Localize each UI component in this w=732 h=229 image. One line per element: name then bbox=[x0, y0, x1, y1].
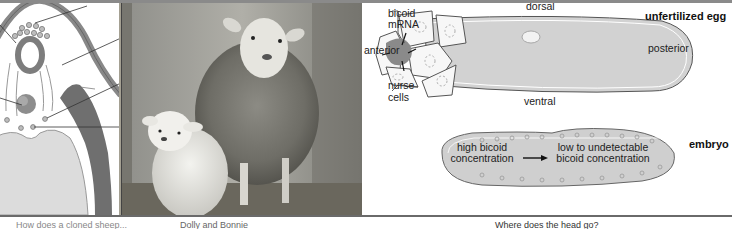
dolly-and-bonnie-photo bbox=[122, 3, 362, 215]
bottom-rule bbox=[0, 215, 732, 217]
posterior-label: posterior bbox=[648, 43, 689, 54]
cell-diagram-caption: How does a cloned sheep... bbox=[16, 220, 127, 229]
anterior-label: anterior bbox=[364, 45, 400, 56]
sheep-photo-panel bbox=[121, 3, 363, 215]
ventral-label: ventral bbox=[524, 96, 556, 107]
cells-label: cells bbox=[388, 92, 409, 103]
cell-diagram-illustration bbox=[0, 3, 121, 215]
high-bicoid-label-line2: concentration bbox=[442, 153, 522, 164]
unfertilized-egg-title: unfertilized egg bbox=[645, 11, 726, 22]
photo-caption: Dolly and Bonnie bbox=[180, 220, 248, 229]
low-bicoid-label-line2: bicoid concentration bbox=[548, 153, 658, 164]
bicoid-caption: Where does the head go? bbox=[495, 220, 599, 229]
cell-diagram-panel bbox=[0, 3, 121, 215]
embryo-title: embryo bbox=[689, 139, 729, 150]
bicoid-illustration bbox=[362, 3, 732, 215]
bicoid-diagram-panel: bicoid mRNA anterior nurse cells dorsal … bbox=[362, 3, 732, 215]
nurse-label: nurse bbox=[388, 80, 414, 91]
mrna-label: mRNA bbox=[388, 19, 419, 30]
dorsal-label: dorsal bbox=[526, 3, 555, 12]
